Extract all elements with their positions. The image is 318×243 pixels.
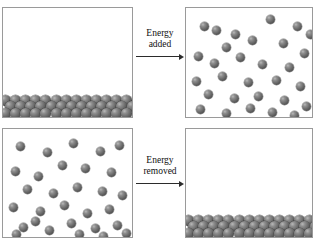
gas-particle (254, 92, 263, 101)
arrow-head-icon (179, 181, 184, 187)
gas-particle (244, 78, 253, 87)
gas-particle (210, 59, 219, 68)
gas-particle (118, 191, 127, 200)
gas-particle (279, 39, 288, 48)
gas-particle (194, 52, 203, 61)
gas-particle (192, 77, 201, 86)
gas-state-panel-top-right (185, 7, 313, 118)
gas-particle (302, 102, 311, 111)
lattice-particle (223, 228, 234, 238)
gas-particle (107, 168, 116, 177)
gas-particle (83, 209, 92, 218)
gas-particle (105, 205, 114, 214)
gas-particle (11, 167, 20, 176)
gas-particle (69, 139, 78, 148)
states-of-matter-figure: Energy added Energy removed (0, 0, 318, 243)
gas-particle (49, 189, 58, 198)
gas-particle (98, 187, 107, 196)
gas-state-panel-bottom-left (2, 128, 133, 238)
gas-particle (60, 201, 69, 210)
gas-particle (272, 76, 281, 85)
gas-particle (258, 60, 267, 69)
energy-removed-label-line2: removed (136, 166, 184, 177)
gas-particle (45, 226, 54, 235)
lattice-particle (304, 228, 313, 238)
gas-particle (91, 224, 100, 233)
energy-added-arrow-shaft (136, 53, 184, 60)
gas-particle (236, 53, 245, 62)
gas-particle (16, 142, 25, 151)
gas-particle (246, 104, 255, 113)
gas-particle (58, 161, 67, 170)
gas-particle (306, 30, 313, 39)
gas-particle (268, 108, 277, 117)
gas-particle (196, 105, 205, 114)
gas-particle (218, 72, 227, 81)
gas-particle (115, 141, 124, 150)
arrow-line (136, 183, 180, 184)
gas-particle (222, 109, 231, 118)
gas-particle (200, 22, 209, 31)
gas-particle (12, 230, 21, 238)
gas-particle (300, 49, 309, 58)
gas-particle (266, 15, 275, 24)
gas-particle (212, 26, 221, 35)
gas-particle (81, 164, 90, 173)
lattice-particle (234, 228, 245, 238)
energy-removed-label-line1: Energy (136, 155, 184, 166)
arrow-line (136, 56, 180, 57)
lattice-particle (121, 108, 132, 118)
arrow-head-icon (179, 54, 184, 60)
gas-particle (248, 36, 257, 45)
energy-added-label-line2: added (136, 39, 184, 50)
gas-particle (43, 148, 52, 157)
gas-particle (293, 22, 302, 31)
gas-particle (34, 172, 43, 181)
gas-particle (290, 111, 299, 118)
gas-particle (99, 232, 108, 238)
gas-particle (23, 185, 32, 194)
gas-particle (36, 207, 45, 216)
gas-particle (96, 147, 105, 156)
gas-particle (204, 90, 213, 99)
energy-removed-arrow-shaft (136, 180, 184, 187)
gas-particle (19, 223, 28, 232)
gas-particle (231, 30, 240, 39)
lattice-particle (40, 108, 51, 118)
gas-particle (296, 82, 305, 91)
energy-added-arrow: Energy added (136, 28, 184, 60)
energy-added-label-line1: Energy (136, 28, 184, 39)
solid-state-panel-top-left (2, 7, 133, 118)
gas-particle (280, 96, 289, 105)
gas-particle (285, 63, 294, 72)
gas-particle (67, 219, 76, 228)
gas-particle (222, 43, 231, 52)
gas-particle (75, 230, 84, 238)
gas-particle (122, 229, 131, 238)
lattice-particle (51, 108, 62, 118)
gas-particle (9, 203, 18, 212)
gas-particle (31, 217, 40, 226)
gas-particle (73, 183, 82, 192)
gas-particle (230, 94, 239, 103)
gas-particle (113, 221, 122, 230)
solid-state-panel-bottom-right (185, 128, 313, 238)
energy-removed-arrow: Energy removed (136, 155, 184, 187)
